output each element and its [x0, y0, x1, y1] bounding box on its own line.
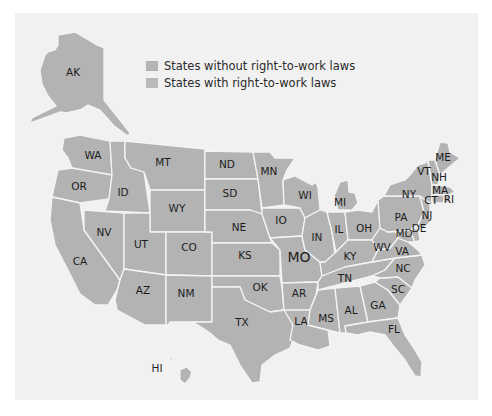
- label-ks: KS: [238, 249, 252, 261]
- label-co: CO: [181, 241, 197, 253]
- state-az: [115, 269, 166, 325]
- label-va: VA: [395, 245, 410, 257]
- label-ne: NE: [232, 221, 247, 233]
- state-hi: [180, 367, 192, 384]
- state-co: [166, 232, 212, 276]
- legend-swatch-without-rtw: [146, 61, 158, 71]
- state-hi-small: [140, 339, 173, 361]
- state-ak: [30, 32, 130, 136]
- label-wa: WA: [85, 149, 103, 161]
- label-wy: WY: [169, 202, 186, 214]
- label-ma: MA: [432, 184, 449, 196]
- label-vt: VT: [417, 165, 431, 177]
- label-ok: OK: [252, 281, 268, 293]
- label-tx: TX: [234, 316, 249, 328]
- label-nh: NH: [431, 171, 447, 183]
- label-fl: FL: [388, 323, 400, 335]
- label-wi: WI: [298, 189, 311, 201]
- label-al: AL: [344, 304, 357, 316]
- label-tn: TN: [337, 272, 352, 284]
- label-mt: MT: [155, 156, 171, 168]
- label-nc: NC: [395, 262, 410, 274]
- label-ny: NY: [402, 188, 417, 200]
- label-wv: WV: [373, 241, 391, 253]
- label-or: OR: [71, 180, 87, 192]
- label-id: ID: [117, 186, 128, 198]
- label-nv: NV: [96, 226, 112, 238]
- label-pa: PA: [395, 211, 409, 223]
- state-fl: [345, 318, 422, 377]
- legend: States without right-to-work laws States…: [146, 58, 355, 92]
- label-ar: AR: [292, 287, 306, 299]
- label-sc: SC: [391, 283, 405, 295]
- label-nm: NM: [178, 287, 195, 299]
- label-mo: MO: [287, 249, 310, 265]
- label-mn: MN: [261, 165, 278, 177]
- state-nm: [166, 275, 212, 325]
- label-az: AZ: [136, 284, 150, 296]
- label-de: DE: [412, 222, 427, 234]
- legend-swatch-with-rtw: [146, 78, 158, 88]
- label-ga: GA: [370, 299, 386, 311]
- label-ca: CA: [73, 255, 88, 267]
- label-ms: MS: [318, 312, 334, 324]
- label-io: IO: [275, 214, 286, 226]
- label-il: IL: [335, 223, 344, 235]
- label-md: MD: [395, 227, 412, 239]
- label-mi: MI: [334, 196, 346, 208]
- label-la: LA: [294, 315, 308, 327]
- label-oh: OH: [356, 222, 372, 234]
- legend-item-without-rtw: States without right-to-work laws: [146, 58, 355, 74]
- label-ut: UT: [134, 238, 149, 250]
- legend-item-with-rtw: States with right-to-work laws: [146, 75, 355, 91]
- label-nd: ND: [219, 158, 235, 170]
- label-ak: AK: [66, 66, 81, 78]
- label-sd: SD: [223, 187, 238, 199]
- label-nj: NJ: [422, 209, 433, 221]
- legend-label-with-rtw: States with right-to-work laws: [164, 76, 336, 90]
- legend-label-without-rtw: States without right-to-work laws: [164, 59, 355, 73]
- label-hi: HI: [152, 362, 163, 374]
- label-in: IN: [312, 231, 323, 243]
- label-me: ME: [435, 151, 451, 163]
- label-ky: KY: [344, 250, 358, 262]
